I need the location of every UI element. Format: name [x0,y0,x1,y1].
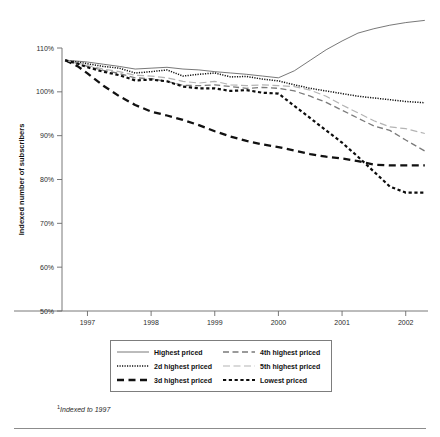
y-tick-label: 50% [40,308,54,315]
legend-line-sample [222,362,256,370]
legend-label: 5th highest priced [260,363,320,370]
chart-footnote: 1Indexed to 1997 [57,404,110,413]
y-tick-label: 60% [40,264,54,271]
series-line-1 [65,20,425,77]
chart-legend: Highest priced4th highest priced2d highe… [110,340,332,392]
x-tick-label: 1999 [207,319,223,326]
y-tick-label: 80% [40,176,54,183]
legend-entry[interactable]: Highest priced [116,345,220,359]
legend-entry[interactable]: 4th highest priced [222,345,326,359]
x-tick-label: 2002 [398,319,414,326]
series-line-5 [65,60,425,133]
legend-entry[interactable]: 3d highest priced [116,373,220,387]
footnote-text: Indexed to 1997 [60,406,110,413]
legend-label: Lowest priced [260,377,307,384]
y-tick-label: 110% [37,45,54,52]
page-bottom-rule [14,428,426,429]
legend-label: 4th highest priced [260,349,320,356]
x-tick-label: 2000 [271,319,287,326]
legend-entry[interactable]: Lowest priced [222,373,326,387]
legend-entry[interactable]: 2d highest priced [116,359,220,373]
legend-label: 3d highest priced [154,377,212,384]
legend-line-sample [222,376,256,384]
legend-entry[interactable]: 5th highest priced [222,359,326,373]
legend-line-sample [116,376,150,384]
chart-figure: 110%100%90%80%70%60%50%19971998199920002… [0,0,440,437]
legend-label: 2d highest priced [154,363,212,370]
x-tick-label: 2001 [334,319,350,326]
legend-line-sample [116,348,150,356]
y-tick-label: 100% [36,88,54,95]
y-axis-title: Indexed number of subscribers [17,124,26,236]
legend-label: Highest priced [154,349,203,356]
legend-line-sample [222,348,256,356]
series-line-6 [65,60,425,192]
x-tick-label: 1997 [80,319,96,326]
y-tick-label: 70% [40,220,54,227]
x-tick-label: 1998 [143,319,159,326]
legend-line-sample [116,362,150,370]
y-tick-label: 90% [40,132,54,139]
